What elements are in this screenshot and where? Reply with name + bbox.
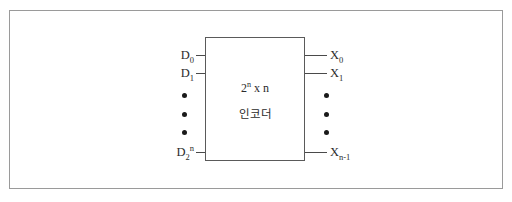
output-x1-sub: 1 xyxy=(339,73,343,83)
output-label-x1: X1 xyxy=(330,67,343,80)
output-x1-base: X xyxy=(330,66,339,80)
input-d1-sub: 1 xyxy=(190,73,194,83)
input-d2n-sup: n xyxy=(190,143,194,153)
encoder-block-label-name: 인코더 xyxy=(206,108,304,121)
input-label-d1: D1 xyxy=(156,67,194,80)
input-label-d0: D0 xyxy=(156,49,194,62)
input-label-d2n: D2n xyxy=(148,146,194,159)
output-label-x0: X0 xyxy=(330,49,343,62)
input-d1-base: D xyxy=(181,66,190,80)
right-ellipsis-dot-1 xyxy=(324,93,329,98)
output-label-xn1: Xn-1 xyxy=(330,146,350,159)
right-ellipsis-dot-3 xyxy=(324,130,329,135)
left-ellipsis-dot-2 xyxy=(182,112,187,117)
input-d0-base: D xyxy=(181,48,190,62)
encoder-spec-rest: x n xyxy=(251,81,269,95)
wire-output-x0 xyxy=(305,55,327,56)
wire-output-x1 xyxy=(305,73,327,74)
output-xn1-sub: n-1 xyxy=(339,152,350,162)
input-d0-sub: 0 xyxy=(190,55,194,65)
right-ellipsis-dot-2 xyxy=(324,112,329,117)
input-d2n-base: D xyxy=(176,145,185,159)
wire-output-xn1 xyxy=(305,152,327,153)
left-ellipsis-dot-1 xyxy=(182,93,187,98)
input-d2n-sub: 2 xyxy=(186,152,190,162)
left-ellipsis-dot-3 xyxy=(182,130,187,135)
output-x0-sub: 0 xyxy=(339,55,343,65)
encoder-block: 2n x n 인코더 xyxy=(205,37,305,161)
output-xn1-base: X xyxy=(330,145,339,159)
diagram-canvas: D0 D1 D2n X0 X1 Xn-1 2n x n 인코더 xyxy=(0,0,512,202)
encoder-block-label-spec: 2n x n xyxy=(206,82,304,95)
output-x0-base: X xyxy=(330,48,339,62)
